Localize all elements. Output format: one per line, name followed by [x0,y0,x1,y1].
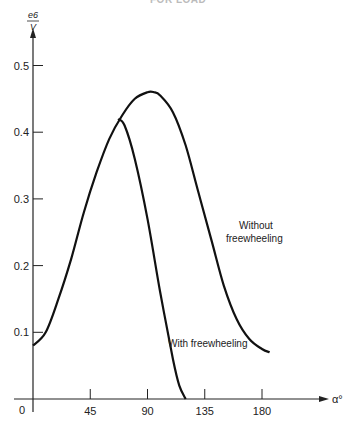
x-tick-label: 135 [196,405,214,417]
chart: 0.10.20.30.40.5 4590135180 e6 V α° 0 Wit… [0,0,352,428]
label-with-freewheeling: With freewheeling [168,338,247,349]
curve-with-freewheeling [118,119,186,399]
label-without-freewheeling-line2: freewheeling [226,233,283,244]
origin-label: 0 [19,404,25,416]
curve-without-freewheeling [33,92,270,353]
y-axis-label-denominator: V [30,22,37,32]
x-axis-arrow-icon [319,396,329,402]
x-tick-label: 90 [141,405,153,417]
y-tick-label: 0.3 [14,193,29,205]
y-tick-label: 0.2 [14,260,29,272]
y-axis-label-numerator: e6 [28,10,38,20]
x-ticks: 4590135180 [84,389,271,417]
y-tick-label: 0.1 [14,326,29,338]
y-tick-label: 0.5 [14,60,29,72]
label-without-freewheeling-line1: Without [239,220,273,231]
x-axis-label: α° [332,393,343,405]
x-tick-label: 45 [84,405,96,417]
y-tick-label: 0.4 [14,126,29,138]
y-ticks: 0.10.20.30.40.5 [14,60,43,339]
x-tick-label: 180 [253,405,271,417]
